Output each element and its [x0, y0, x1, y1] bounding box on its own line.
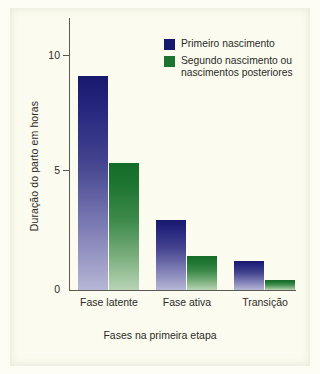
legend-item-segundo-nascimento: Segundo nascimento ou nascimentos poster…: [164, 55, 314, 80]
legend-label-line-1: Segundo nascimento ou: [181, 55, 292, 66]
chart-figure: 10 5 0 Duração do parto em horas Fase la…: [0, 0, 320, 374]
legend-label-segundo-nascimento: Segundo nascimento ou nascimentos poster…: [181, 55, 293, 80]
bar-fase-ativa-segundo: [187, 256, 217, 290]
chart-legend: Primeiro nascimento Segundo nascimento o…: [164, 38, 314, 84]
x-category-label-fase-latente: Fase latente: [68, 296, 150, 308]
x-category-label-transicao: Transição: [224, 296, 306, 308]
bar-transicao-segundo: [265, 280, 295, 290]
legend-item-primeiro-nascimento: Primeiro nascimento: [164, 38, 314, 51]
legend-swatch-green-icon: [164, 56, 175, 67]
legend-swatch-blue-icon: [164, 39, 175, 50]
legend-label-primeiro-nascimento: Primeiro nascimento: [181, 38, 275, 51]
x-axis-title: Fases na primeira etapa: [0, 329, 320, 341]
plot-area: 10 5 0 Duração do parto em horas Fase la…: [0, 0, 320, 374]
bar-fase-latente-segundo: [109, 163, 139, 290]
bar-transicao-primeiro: [234, 261, 264, 290]
x-category-label-fase-ativa: Fase ativa: [148, 296, 226, 308]
bar-fase-ativa-primeiro: [156, 220, 186, 290]
legend-label-line-2: nascimentos posteriores: [181, 67, 293, 78]
bar-fase-latente-primeiro: [78, 76, 108, 290]
